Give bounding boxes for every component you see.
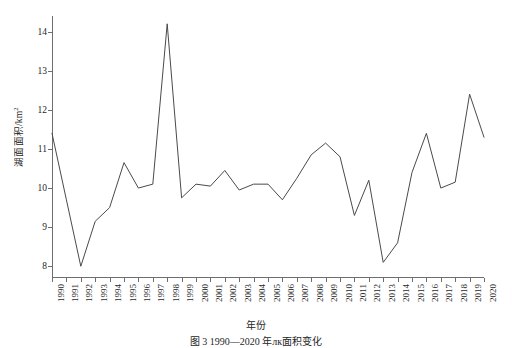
y-axis-tick-label: 11 [38, 144, 47, 154]
x-axis-tick-label: 1993 [99, 284, 109, 302]
x-axis-tick-label: 2004 [257, 284, 267, 302]
x-axis-tick-label: 2008 [315, 284, 325, 302]
x-axis-tick-label: 1998 [171, 284, 181, 302]
x-axis-tick-mark [326, 278, 327, 282]
x-axis-tick-label: 1999 [185, 284, 195, 302]
x-axis-tick-label: 2014 [401, 284, 411, 302]
x-axis-tick-mark [210, 278, 211, 282]
x-axis-tick-label: 2017 [444, 284, 454, 302]
x-axis-tick-mark [95, 278, 96, 282]
x-axis-tick-mark [110, 278, 111, 282]
figure-caption: 图 3 1990—2020 年лк面积变化 [0, 333, 512, 348]
x-axis-tick-marks [52, 278, 484, 283]
y-axis-tick-labels: 891011121314 [26, 16, 47, 278]
y-axis-title-superscript: 2 [12, 107, 19, 110]
y-axis-title-text: 湖面面积/km [14, 111, 24, 167]
x-axis-tick-mark [225, 278, 226, 282]
x-axis-title: 年份 [0, 317, 512, 332]
line-series-svg [52, 16, 484, 278]
x-axis-tick-mark [398, 278, 399, 282]
x-axis-tick-label: 2018 [459, 284, 469, 302]
x-axis-tick-mark [354, 278, 355, 282]
x-axis-tick-label: 2016 [430, 284, 440, 302]
x-axis-tick-label: 2000 [200, 284, 210, 302]
x-axis-tick-mark [254, 278, 255, 282]
x-axis-tick-mark [167, 278, 168, 282]
x-axis-tick-label: 1997 [156, 284, 166, 302]
lake-area-series-line [52, 24, 484, 266]
x-axis-tick-mark [455, 278, 456, 282]
y-axis-tick-label: 14 [38, 27, 48, 37]
x-axis-tick-label: 1994 [113, 284, 123, 302]
x-axis-tick-mark [441, 278, 442, 282]
x-axis-tick-label: 2019 [473, 284, 483, 302]
x-axis-tick-mark [311, 278, 312, 282]
x-axis-tick-label: 2013 [387, 284, 397, 302]
x-axis-tick-label: 2010 [344, 284, 354, 302]
x-axis-tick-mark [282, 278, 283, 282]
y-axis-tick-label: 9 [42, 222, 47, 232]
x-axis-tick-label: 2020 [488, 284, 498, 302]
x-axis-tick-mark [66, 278, 67, 282]
y-axis-title: 湖面面积/km2 [11, 72, 25, 202]
x-axis-tick-label: 1990 [56, 284, 66, 302]
x-axis-tick-label: 2009 [329, 284, 339, 302]
x-axis-tick-label: 2011 [358, 284, 368, 302]
x-axis-tick-label: 2007 [300, 284, 310, 302]
x-axis-tick-label: 2005 [272, 284, 282, 302]
y-axis-tick-label: 12 [38, 105, 48, 115]
x-axis-tick-mark [268, 278, 269, 282]
x-axis-tick-mark [340, 278, 341, 282]
y-axis-tick-label: 8 [42, 261, 47, 271]
x-axis-tick-mark [369, 278, 370, 282]
x-axis-tick-label: 1995 [128, 284, 138, 302]
x-axis-tick-mark [484, 278, 485, 282]
x-axis-tick-label: 2002 [228, 284, 238, 302]
x-axis-tick-mark [124, 278, 125, 282]
x-axis-tick-mark [81, 278, 82, 282]
x-axis-tick-mark [297, 278, 298, 282]
x-axis-tick-label: 2006 [286, 284, 296, 302]
x-axis-tick-mark [426, 278, 427, 282]
x-axis-tick-mark [196, 278, 197, 282]
x-axis-tick-mark [153, 278, 154, 282]
x-axis-tick-mark [470, 278, 471, 282]
x-axis-tick-label: 1992 [84, 284, 94, 302]
x-axis-tick-label: 1996 [142, 284, 152, 302]
x-axis-tick-mark [52, 278, 53, 282]
y-axis-tick-label: 10 [38, 183, 48, 193]
x-axis-tick-mark [138, 278, 139, 282]
x-axis-tick-mark [182, 278, 183, 282]
x-axis-tick-label: 2001 [214, 284, 224, 302]
y-axis-tick-label: 13 [38, 66, 48, 76]
x-axis-tick-mark [383, 278, 384, 282]
x-axis-tick-mark [239, 278, 240, 282]
plot-area [52, 16, 484, 278]
x-axis-tick-mark [412, 278, 413, 282]
x-axis-tick-label: 1991 [70, 284, 80, 302]
x-axis-tick-label: 2015 [416, 284, 426, 302]
x-axis-tick-label: 2003 [243, 284, 253, 302]
x-axis-tick-label: 2012 [372, 284, 382, 302]
